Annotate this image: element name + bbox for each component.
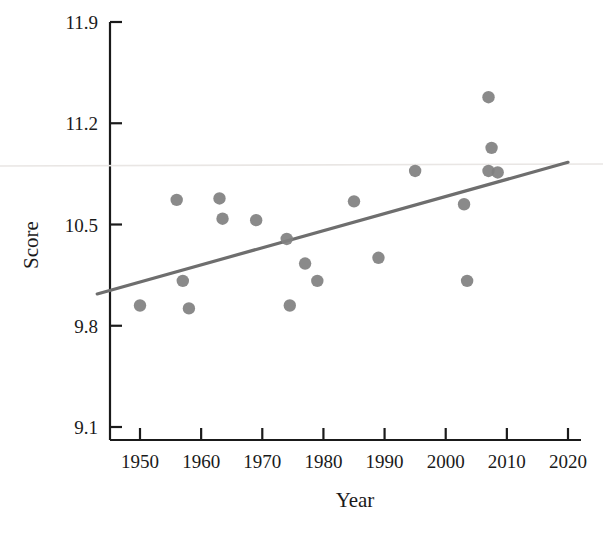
data-point-marker	[216, 213, 228, 225]
data-point-marker	[213, 192, 225, 204]
y-axis-ticks	[110, 22, 122, 427]
data-points	[134, 91, 504, 315]
data-point-marker	[250, 214, 262, 226]
x-tick-label: 1950	[121, 452, 159, 471]
x-tick-label: 1980	[304, 452, 342, 471]
data-point-marker	[461, 275, 473, 287]
x-tick-label: 2010	[488, 452, 526, 471]
data-point-marker	[170, 194, 182, 206]
data-point-marker	[409, 165, 421, 177]
trend-line-segment	[97, 162, 568, 294]
scan-artifact-line	[0, 164, 603, 166]
data-point-marker	[372, 252, 384, 264]
data-point-marker	[134, 299, 146, 311]
scatter-chart-figure: 9.19.810.511.211.9 195019601970198019902…	[0, 0, 603, 534]
data-point-marker	[299, 257, 311, 269]
data-point-marker	[177, 275, 189, 287]
y-tick-label: 9.8	[30, 316, 98, 335]
x-tick-label: 2000	[427, 452, 465, 471]
y-tick-label: 9.1	[30, 418, 98, 437]
x-axis-label: Year	[336, 488, 375, 513]
x-tick-label: 1970	[243, 452, 281, 471]
data-point-marker	[485, 142, 497, 154]
axis-spines	[110, 22, 581, 440]
x-tick-label: 1960	[182, 452, 220, 471]
y-tick-label: 11.2	[30, 114, 98, 133]
trend-line	[97, 162, 568, 294]
x-tick-label: 1990	[366, 452, 404, 471]
data-point-marker	[348, 195, 360, 207]
data-point-marker	[183, 302, 195, 314]
x-tick-label: 2020	[549, 452, 587, 471]
data-point-marker	[491, 166, 503, 178]
y-axis-label: Score	[19, 221, 44, 269]
data-point-marker	[284, 299, 296, 311]
y-tick-label: 11.9	[30, 13, 98, 32]
data-point-marker	[281, 233, 293, 245]
data-point-marker	[311, 275, 323, 287]
x-axis-ticks	[140, 428, 568, 440]
data-point-marker	[482, 91, 494, 103]
data-point-marker	[458, 198, 470, 210]
